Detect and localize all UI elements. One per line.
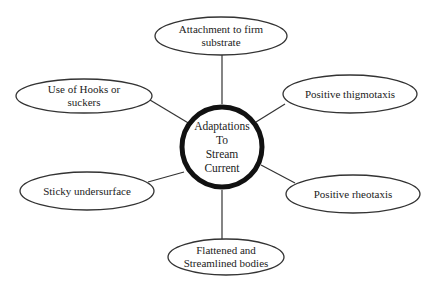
node-hooks-label: Use of Hooks or suckers bbox=[48, 83, 120, 109]
center-label-line: Adaptations bbox=[194, 119, 250, 133]
node-label-line: Attachment to firm bbox=[179, 23, 263, 36]
node-thigmotaxis-label: Positive thigmotaxis bbox=[305, 88, 395, 101]
node-label-line: Sticky undersurface bbox=[43, 185, 131, 198]
node-label-line: Use of Hooks or bbox=[48, 83, 120, 96]
connector-lower-left bbox=[148, 172, 184, 182]
node-sticky-label: Sticky undersurface bbox=[43, 185, 131, 198]
connector-upper-right bbox=[256, 104, 285, 122]
node-rheotaxis-label: Positive rheotaxis bbox=[314, 188, 393, 201]
center-label-line: To bbox=[194, 133, 250, 147]
connector-upper-left bbox=[150, 100, 190, 124]
node-flattened-label: Flattened and Streamlined bodies bbox=[184, 244, 269, 270]
node-attachment-label: Attachment to firm substrate bbox=[179, 23, 263, 49]
connector-lower-right bbox=[261, 165, 295, 183]
node-label-line: substrate bbox=[179, 36, 263, 49]
node-label-line: Positive rheotaxis bbox=[314, 188, 393, 201]
center-label-line: Current bbox=[194, 161, 250, 175]
center-label: Adaptations To Stream Current bbox=[194, 119, 250, 175]
center-label-line: Stream bbox=[194, 147, 250, 161]
node-label-line: Flattened and bbox=[184, 244, 269, 257]
node-label-line: suckers bbox=[48, 96, 120, 109]
node-label-line: Positive thigmotaxis bbox=[305, 88, 395, 101]
diagram-canvas: Adaptations To Stream Current Attachment… bbox=[0, 0, 435, 292]
node-label-line: Streamlined bodies bbox=[184, 257, 269, 270]
